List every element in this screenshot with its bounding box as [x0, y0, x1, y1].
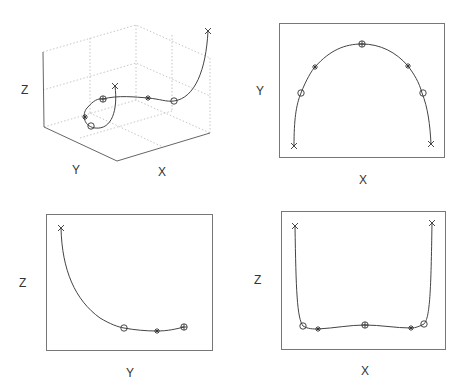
panel-xz: Z X	[0, 0, 467, 392]
plot-frame	[282, 212, 446, 350]
plot-xz	[0, 0, 467, 392]
curve-xz	[295, 223, 432, 329]
star-marker-icon	[315, 326, 321, 332]
markers	[292, 220, 435, 332]
x-axis-label: X	[361, 365, 369, 377]
circled-plus-marker-icon	[362, 322, 368, 328]
z-axis-label: Z	[254, 274, 261, 286]
star-marker-icon	[408, 325, 414, 331]
